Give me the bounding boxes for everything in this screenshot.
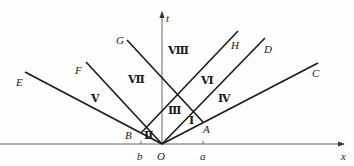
origin-label: O [157, 150, 165, 162]
region-IV: Ⅳ [218, 92, 231, 104]
point-label-A: A [202, 123, 210, 135]
diagram-canvas: t x O b a A B C D E F G H Ⅰ Ⅱ Ⅲ Ⅳ Ⅴ Ⅵ Ⅶ … [0, 0, 354, 166]
region-VI: Ⅵ [200, 74, 214, 86]
point-label-G: G [116, 34, 124, 46]
point-label-H: H [230, 39, 240, 51]
point-label-E: E [15, 76, 23, 88]
x-axis-label: x [340, 150, 346, 162]
point-label-D: D [263, 43, 272, 55]
region-VII: Ⅶ [127, 73, 145, 85]
characteristics-diagram: t x O b a A B C D E F G H Ⅰ Ⅱ Ⅲ Ⅳ Ⅴ Ⅵ Ⅶ … [0, 0, 354, 166]
region-VIII: Ⅷ [167, 44, 189, 56]
point-label-B: B [125, 129, 132, 141]
t-axis-label: t [166, 12, 170, 24]
region-II: Ⅱ [144, 129, 153, 141]
tick-label-b: b [137, 150, 143, 162]
region-III: Ⅲ [168, 104, 181, 116]
point-label-F: F [74, 64, 82, 76]
tick-label-a: a [200, 150, 206, 162]
region-I: Ⅰ [189, 114, 194, 126]
region-V: Ⅴ [90, 92, 100, 104]
point-label-C: C [312, 67, 320, 79]
